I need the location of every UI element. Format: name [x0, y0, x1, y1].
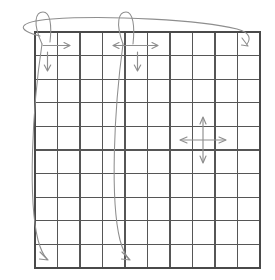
figure-root [0, 0, 275, 280]
grid-annotation-figure [0, 0, 275, 280]
